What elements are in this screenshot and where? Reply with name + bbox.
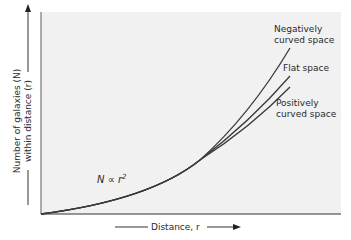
legend-positive-line1: Positively <box>276 98 336 109</box>
legend-negative-line1: Negatively <box>274 24 334 35</box>
legend-negative-line2: curved space <box>274 35 334 46</box>
y-arrow-head-icon <box>25 4 31 12</box>
equation-text: N ∝ r <box>97 174 122 185</box>
y-label-line1: Number of galaxies (N) <box>12 36 23 206</box>
negative-curve <box>41 48 290 214</box>
legend-positive-line2: curved space <box>276 109 336 120</box>
flat-curve <box>41 76 290 214</box>
positive-curve <box>41 87 290 214</box>
x-axis-label: Distance, r <box>151 222 200 233</box>
y-label-line2: within distance (r) <box>23 36 34 206</box>
equation-annotation: N ∝ r2 <box>97 173 127 185</box>
x-arrow-head-icon <box>233 224 241 230</box>
legend-positive: Positively curved space <box>276 98 336 120</box>
legend-flat: Flat space <box>283 63 329 74</box>
equation-exponent: 2 <box>122 173 126 181</box>
legend-negative: Negatively curved space <box>274 24 334 46</box>
y-axis-label: Number of galaxies (N) within distance (… <box>12 36 34 206</box>
